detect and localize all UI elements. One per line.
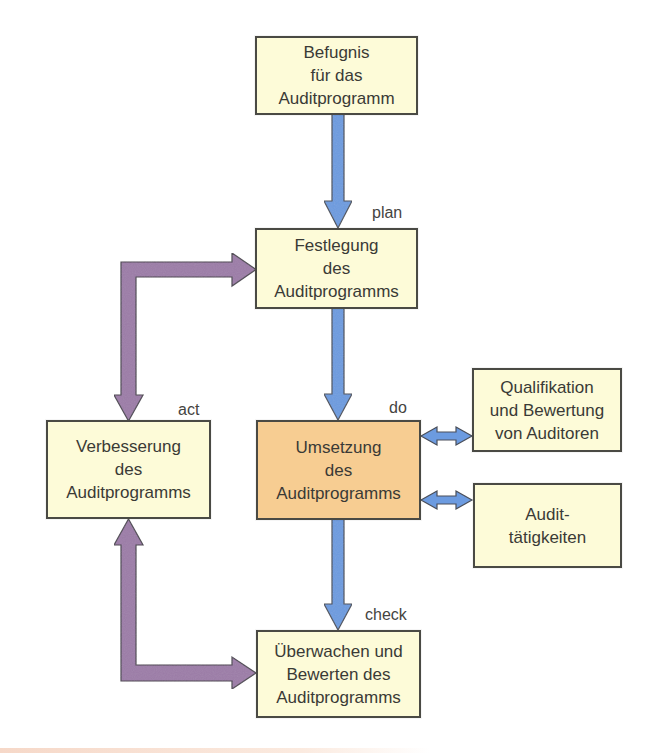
- node-monitor-line-3: Auditprogramms: [276, 686, 401, 709]
- arrow-improve-to-establish: [114, 253, 256, 421]
- arrow-implement-competence-bidirectional: [421, 427, 472, 445]
- node-implement-line-1: Umsetzung: [296, 436, 382, 459]
- node-monitor: Überwachen und Bewerten des Auditprogram…: [256, 630, 421, 718]
- node-improve-line-3: Auditprogramms: [66, 481, 191, 504]
- arrow-implement-activities-bidirectional: [421, 491, 472, 509]
- node-activities-line-2: tätigkeiten: [509, 526, 587, 549]
- node-monitor-line-1: Überwachen und: [274, 640, 403, 663]
- phase-label-check: check: [365, 607, 407, 623]
- node-activities-line-1: Audit-: [525, 503, 569, 526]
- node-implement-line-3: Auditprogramms: [276, 482, 401, 505]
- arrow-establish-to-implement: [324, 308, 352, 420]
- node-improve-line-1: Verbesserung: [76, 435, 181, 458]
- node-establish-line-1: Festlegung: [294, 234, 378, 257]
- arrow-implement-to-monitor: [324, 519, 352, 630]
- phase-label-act: act: [178, 402, 199, 418]
- node-competence: Qualifikation und Bewertung von Auditore…: [472, 368, 622, 452]
- node-implement: Umsetzung des Auditprogramms: [256, 420, 421, 520]
- node-implement-line-2: des: [325, 459, 352, 482]
- node-improve-line-2: des: [115, 458, 142, 481]
- page-edge-band: [0, 748, 430, 753]
- node-competence-line-2: und Bewertung: [490, 399, 604, 422]
- arrow-monitor-to-improve: [114, 519, 256, 689]
- node-competence-line-1: Qualifikation: [500, 376, 594, 399]
- node-authority-line-3: Auditprogramm: [278, 87, 394, 110]
- node-authority-line-2: für das: [311, 64, 363, 87]
- node-improve: Verbesserung des Auditprogramms: [46, 420, 211, 519]
- node-establish: Festlegung des Auditprogramms: [255, 228, 418, 309]
- node-authority: Befugnis für das Auditprogramm: [255, 36, 418, 115]
- node-establish-line-3: Auditprogramms: [274, 280, 399, 303]
- audit-program-diagram: Befugnis für das Auditprogramm Festlegun…: [0, 0, 656, 753]
- node-competence-line-3: von Auditoren: [495, 422, 599, 445]
- phase-label-plan: plan: [372, 205, 402, 221]
- node-activities: Audit- tätigkeiten: [473, 483, 622, 568]
- arrow-authority-to-establish: [324, 114, 352, 228]
- node-monitor-line-2: Bewerten des: [287, 663, 391, 686]
- node-establish-line-2: des: [323, 257, 350, 280]
- phase-label-do: do: [389, 400, 407, 416]
- node-authority-line-1: Befugnis: [303, 41, 369, 64]
